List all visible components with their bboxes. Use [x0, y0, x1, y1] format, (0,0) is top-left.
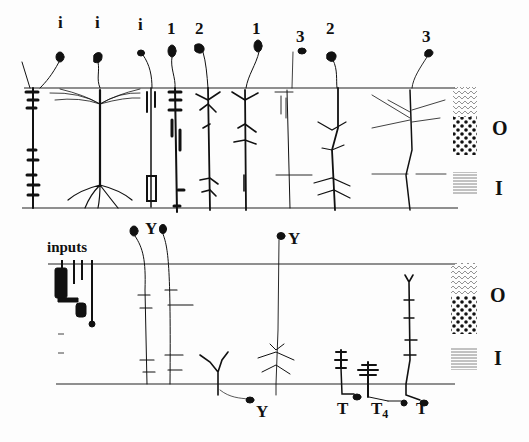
- inputs-label: inputs: [47, 240, 87, 255]
- input-terminals: [55, 260, 95, 353]
- layer-label-inner-bottom: I: [494, 348, 502, 368]
- neuron-figure: i i i 1 2 1 3 2 3 O I inputs Y Y Y T T4 …: [0, 0, 529, 442]
- cell-label-i-1: i: [58, 14, 63, 31]
- cell-label-t-a: T: [337, 400, 348, 417]
- layer-label-outer-bottom: O: [490, 285, 506, 305]
- cell-label-2-b: 2: [326, 20, 335, 37]
- bottom-layer-legend: [451, 263, 477, 370]
- cell-label-1-a: 1: [167, 20, 176, 37]
- cell-label-i-2: i: [95, 14, 100, 31]
- cell-label-y-a: Y: [145, 220, 157, 237]
- cell-label-1-b: 1: [252, 20, 261, 37]
- cell-label-i-3: i: [138, 16, 143, 33]
- layer-label-outer-top: O: [492, 118, 508, 138]
- cell-label-t4: T4: [371, 400, 388, 420]
- t4-subscript: 4: [382, 407, 388, 421]
- cell-label-3-a: 3: [296, 28, 305, 45]
- top-panel-borders: [22, 88, 458, 208]
- cell-label-y-c: Y: [256, 403, 268, 420]
- layer-label-inner-top: I: [495, 178, 503, 198]
- cell-label-y-b: Y: [288, 230, 300, 247]
- bottom-panel-borders: [48, 264, 455, 384]
- cell-label-t-b: T: [416, 400, 427, 417]
- t4-main: T: [371, 399, 382, 418]
- neuron-drawing: [0, 0, 529, 442]
- top-layer-legend: [453, 87, 477, 194]
- cell-label-2-a: 2: [195, 20, 204, 37]
- cell-label-3-b: 3: [422, 28, 431, 45]
